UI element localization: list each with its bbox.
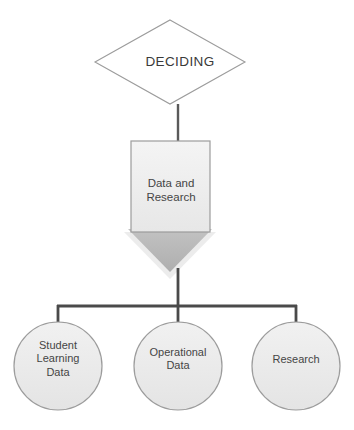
flow-arrow (128, 229, 212, 272)
process-box (131, 141, 210, 232)
flowchart-diagram: DECIDING Data and Research Student Learn… (0, 0, 354, 430)
node-research (252, 322, 340, 410)
decision-diamond (95, 20, 245, 104)
node-operational-data (134, 322, 222, 410)
node-student-learning-data (14, 322, 102, 410)
diagram-canvas (0, 0, 354, 430)
